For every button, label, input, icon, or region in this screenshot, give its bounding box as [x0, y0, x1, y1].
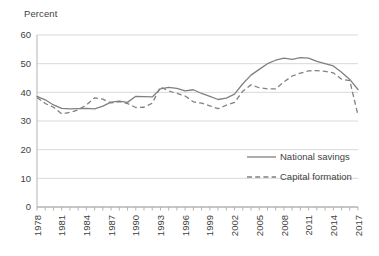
y-tick-label: 60 [20, 29, 31, 40]
y-axis-tick-labels: 0102030405060 [20, 29, 31, 212]
series-line-national-savings [37, 58, 358, 109]
chart-legend: National savingsCapital formation [247, 151, 352, 182]
x-tick-label: 1990 [130, 215, 141, 236]
x-tick-label: 1981 [56, 215, 67, 236]
x-tick-label: 2011 [303, 215, 314, 235]
x-tick-label: 2014 [328, 215, 339, 236]
data-series [37, 58, 358, 116]
line-chart-plot: 0102030405060 19781981198419871990199319… [0, 0, 379, 256]
x-tick-label: 1996 [180, 215, 191, 236]
x-tick-label: 2008 [279, 215, 290, 236]
x-tick-label: 2002 [229, 215, 240, 236]
x-tick-label: 1999 [204, 215, 215, 236]
x-tick-label: 1987 [106, 215, 117, 236]
y-tick-label: 20 [20, 144, 31, 155]
y-tick-label: 50 [20, 58, 31, 69]
x-axis-tick-labels: 1978198119841987199019931996199920022005… [32, 215, 364, 236]
x-tick-label: 2005 [254, 215, 265, 236]
y-tick-label: 10 [20, 173, 31, 184]
x-tick-label: 1984 [81, 215, 92, 236]
legend-label: National savings [280, 151, 350, 162]
x-axis [37, 35, 358, 211]
x-tick-label: 1993 [155, 215, 166, 236]
legend-label: Capital formation [280, 171, 352, 182]
chart-container: Percent 0102030405060 197819811984198719… [0, 0, 379, 256]
x-tick-label: 2017 [353, 215, 364, 236]
x-tick-label: 1978 [32, 215, 43, 236]
y-tick-label: 40 [20, 87, 31, 98]
y-tick-label: 30 [20, 115, 31, 126]
y-tick-label: 0 [26, 201, 31, 212]
